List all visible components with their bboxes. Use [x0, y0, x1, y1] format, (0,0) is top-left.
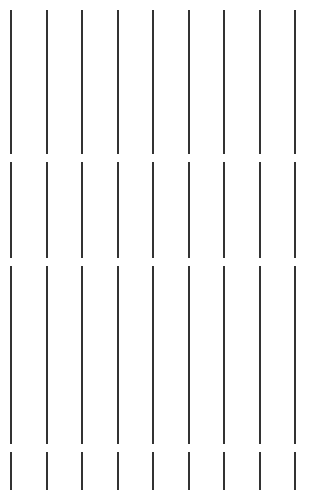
- rule-8-segment-upper-middle: [259, 162, 261, 258]
- rule-9-segment-bottom: [294, 452, 296, 490]
- rule-6-segment-bottom: [188, 452, 190, 490]
- rule-5-segment-bottom: [152, 452, 154, 490]
- rule-3-segment-upper-middle: [81, 162, 83, 258]
- rule-8-segment-lower-middle: [259, 266, 261, 444]
- rule-column-3: [81, 0, 83, 497]
- rule-2-segment-lower-middle: [46, 266, 48, 444]
- rule-column-8: [259, 0, 261, 497]
- rule-1-segment-top: [10, 10, 12, 154]
- rule-4-segment-upper-middle: [117, 162, 119, 258]
- rule-4-segment-bottom: [117, 452, 119, 490]
- rule-1-segment-upper-middle: [10, 162, 12, 258]
- rule-7-segment-lower-middle: [223, 266, 225, 444]
- rule-3-segment-lower-middle: [81, 266, 83, 444]
- rule-column-2: [46, 0, 48, 497]
- rule-7-segment-upper-middle: [223, 162, 225, 258]
- rule-column-5: [152, 0, 154, 497]
- rule-column-7: [223, 0, 225, 497]
- rule-5-segment-upper-middle: [152, 162, 154, 258]
- rule-6-segment-top: [188, 10, 190, 154]
- rule-2-segment-bottom: [46, 452, 48, 490]
- rule-column-4: [117, 0, 119, 497]
- rule-8-segment-bottom: [259, 452, 261, 490]
- rule-5-segment-top: [152, 10, 154, 154]
- rule-6-segment-upper-middle: [188, 162, 190, 258]
- rule-3-segment-top: [81, 10, 83, 154]
- rule-7-segment-bottom: [223, 452, 225, 490]
- rule-8-segment-top: [259, 10, 261, 154]
- rule-9-segment-upper-middle: [294, 162, 296, 258]
- rule-column-9: [294, 0, 296, 497]
- rule-column-6: [188, 0, 190, 497]
- rule-1-segment-bottom: [10, 452, 12, 490]
- rule-9-segment-lower-middle: [294, 266, 296, 444]
- rule-2-segment-top: [46, 10, 48, 154]
- rule-5-segment-lower-middle: [152, 266, 154, 444]
- rule-7-segment-top: [223, 10, 225, 154]
- rule-column-1: [10, 0, 12, 497]
- rule-6-segment-lower-middle: [188, 266, 190, 444]
- rule-9-segment-top: [294, 10, 296, 154]
- rule-4-segment-lower-middle: [117, 266, 119, 444]
- rule-1-segment-lower-middle: [10, 266, 12, 444]
- page-canvas: [0, 0, 316, 497]
- rule-3-segment-bottom: [81, 452, 83, 490]
- rule-4-segment-top: [117, 10, 119, 154]
- rule-2-segment-upper-middle: [46, 162, 48, 258]
